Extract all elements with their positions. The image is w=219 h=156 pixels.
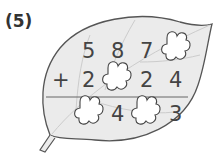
digit-r2c4: 4 bbox=[169, 70, 182, 91]
digit-r2c1: 2 bbox=[82, 70, 95, 91]
digit-r1c2: 8 bbox=[111, 41, 124, 62]
digit-r3c2: 4 bbox=[111, 104, 124, 125]
digit-r1c3: 7 bbox=[140, 41, 153, 62]
leaf-illustration bbox=[0, 0, 219, 156]
digit-r1c1: 5 bbox=[82, 41, 95, 62]
digit-r2c3: 2 bbox=[140, 70, 153, 91]
plus-operator: + bbox=[52, 70, 70, 91]
digit-r3c4: 3 bbox=[169, 104, 182, 125]
